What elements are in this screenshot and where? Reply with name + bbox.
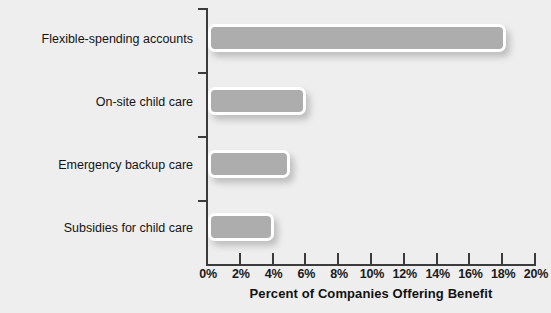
x-axis-tick: [468, 253, 470, 265]
bar-0: [208, 24, 506, 52]
x-axis-tick: [206, 253, 208, 265]
category-label-3: Subsidies for child care: [0, 221, 193, 235]
x-axis-title: Percent of Companies Offering Benefit: [206, 286, 536, 301]
x-axis-tick: [272, 253, 274, 265]
category-label-0: Flexible-spending accounts: [0, 32, 193, 46]
bar-1: [208, 87, 306, 115]
x-axis-tick: [501, 253, 503, 265]
x-axis-tick: [239, 253, 241, 265]
y-axis-tick: [198, 72, 207, 74]
plot-area: Flexible-spending accounts On-site child…: [0, 0, 551, 313]
y-axis-tick: [198, 136, 207, 138]
x-axis-tick: [370, 253, 372, 265]
category-label-2: Emergency backup care: [0, 158, 193, 172]
bar-chart: Flexible-spending accounts On-site child…: [0, 0, 551, 313]
x-axis-tick: [534, 253, 536, 265]
x-axis-tick: [337, 253, 339, 265]
category-label-1: On-site child care: [0, 95, 193, 109]
x-axis-tick-label: 20%: [513, 267, 551, 281]
y-axis-tick: [198, 200, 207, 202]
y-axis-tick: [198, 8, 207, 10]
bar-3: [208, 213, 274, 241]
x-axis-tick: [403, 253, 405, 265]
bar-2: [208, 150, 290, 178]
x-axis-tick: [304, 253, 306, 265]
x-axis-tick: [436, 253, 438, 265]
